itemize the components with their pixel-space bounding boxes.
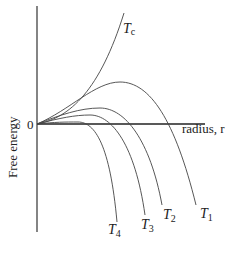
y-axis-label: Free energy — [5, 116, 20, 178]
label-t2: T2 — [163, 207, 176, 224]
curve-t4 — [37, 122, 117, 222]
label-t1: T1 — [200, 206, 213, 223]
label-t3: T3 — [141, 217, 154, 234]
origin-label: 0 — [27, 117, 34, 132]
curve-t3 — [37, 115, 145, 215]
free-energy-chart: 0 Free energy radius, r Tc T1 T2 T3 T4 — [0, 0, 235, 258]
label-tc: Tc — [123, 21, 136, 37]
x-axis-label: radius, r — [182, 121, 225, 136]
label-t4: T4 — [108, 222, 121, 239]
curve-tc — [37, 13, 124, 124]
curve-t1 — [37, 82, 196, 205]
